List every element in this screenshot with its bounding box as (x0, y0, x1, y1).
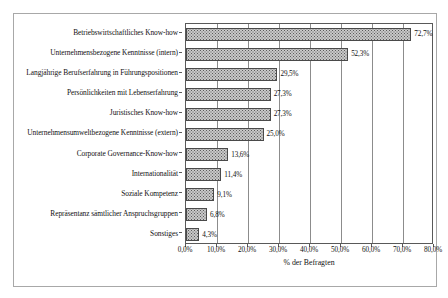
bar-row: 72,7% (186, 24, 432, 44)
x-tick-label: 0,0% (178, 246, 193, 254)
category-label: Langjährige Berufserfahrung in Führungsp… (26, 63, 178, 83)
category-label: Repräsentanz sämtlicher Anspruchsgruppen (50, 204, 178, 224)
bar-value-label: 27,3% (274, 90, 292, 98)
x-tick-label: 30,0% (269, 246, 287, 254)
y-axis-tick (179, 212, 182, 213)
x-tick-label: 50,0% (331, 246, 349, 254)
y-axis-tick (179, 152, 182, 153)
category-label: Unternehmensumweltbezogene Kenntnisse (e… (27, 123, 178, 143)
category-label: Corporate Governance-Know-how (77, 144, 178, 164)
bar-value-label: 52,3% (351, 50, 369, 58)
category-label: Internationalität (132, 164, 178, 184)
x-tick-label: 10,0% (207, 246, 225, 254)
category-label: Sonstiges (150, 224, 178, 244)
x-tick-label: 60,0% (362, 246, 380, 254)
category-label: Soziale Kompetenz (121, 184, 178, 204)
bar-value-label: 29,5% (280, 70, 298, 78)
y-axis-tick (179, 52, 182, 53)
x-axis-ticks: 0,0%10,0%20,0%30,0%40,0%50,0%60,0%70,0%8… (185, 244, 433, 258)
bar-value-label: 11,4% (224, 171, 242, 179)
bar-value-label: 72,7% (414, 30, 432, 38)
bar (186, 68, 277, 81)
bar-row: 13,6% (186, 145, 432, 165)
bar (186, 48, 348, 61)
bar (186, 188, 214, 201)
y-axis-tick (179, 32, 182, 33)
bar (186, 228, 199, 241)
category-axis-labels: Betriebswirtschaftliches Know-howUnterne… (14, 23, 182, 244)
x-tick-label: 80,0% (424, 246, 442, 254)
bar-row: 25,0% (186, 124, 432, 144)
bar-row: 29,5% (186, 64, 432, 84)
bar (186, 168, 221, 181)
bar-value-label: 4,3% (202, 231, 217, 239)
bar (186, 128, 264, 141)
bar-value-label: 27,3% (274, 110, 292, 118)
category-label: Persönlichkeiten mit Lebenserfahrung (67, 83, 178, 103)
bar-value-label: 9,1% (217, 191, 232, 199)
x-axis-title: % der Befragten (185, 258, 433, 267)
y-axis-tick (179, 192, 182, 193)
bar-row: 11,4% (186, 165, 432, 185)
x-tick-label: 70,0% (393, 246, 411, 254)
bar-row: 6,8% (186, 205, 432, 225)
plot-area: 72,7%52,3%29,5%27,3%27,3%25,0%13,6%11,4%… (185, 23, 433, 244)
y-axis-tick (179, 112, 182, 113)
category-label: Betriebswirtschaftliches Know-how (73, 23, 178, 43)
category-label: Juristisches Know-how (110, 103, 178, 123)
bar (186, 208, 207, 221)
y-axis-tick (179, 72, 182, 73)
bar-row: 9,1% (186, 185, 432, 205)
x-tick-label: 20,0% (238, 246, 256, 254)
y-axis-tick (179, 172, 182, 173)
bar-value-label: 13,6% (231, 151, 249, 159)
bar (186, 28, 411, 41)
y-axis-tick (179, 92, 182, 93)
y-axis-tick (179, 232, 182, 233)
bar-row: 27,3% (186, 104, 432, 124)
bar-value-label: 25,0% (267, 130, 285, 138)
bar-row: 52,3% (186, 44, 432, 64)
bar (186, 148, 228, 161)
bar-row: 4,3% (186, 225, 432, 245)
y-axis-tick (179, 132, 182, 133)
chart-figure: Betriebswirtschaftliches Know-howUnterne… (13, 13, 437, 287)
bar-row: 27,3% (186, 84, 432, 104)
x-tick-label: 40,0% (300, 246, 318, 254)
bar (186, 108, 271, 121)
category-label: Unternehmensbezogene Kenntnisse (intern) (50, 43, 178, 63)
bar-value-label: 6,8% (210, 211, 225, 219)
bar (186, 88, 271, 101)
